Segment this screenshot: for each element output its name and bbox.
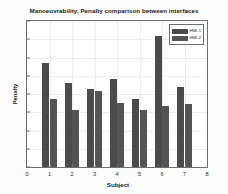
figure-canvas: Manoeuvrability, Penalty comparison betw… (0, 0, 228, 194)
x-tick-label: 4 (109, 171, 125, 177)
legend-swatch (172, 29, 188, 34)
legend-swatch (172, 36, 188, 41)
x-tick-label: 2 (64, 171, 80, 177)
x-tick-mark (95, 164, 96, 167)
x-tick-label: 6 (154, 171, 170, 177)
y-tick-mark (27, 130, 30, 131)
y-axis-label: Penalty (12, 84, 18, 105)
bar-hmi-1-subject-4 (110, 79, 117, 167)
bar-hmi-2-subject-4 (117, 103, 124, 167)
legend-label: HMI-2 (190, 36, 201, 40)
y-tick-mark (27, 57, 30, 58)
bar-hmi-2-subject-3 (95, 91, 102, 167)
y-tick-mark (27, 112, 30, 113)
x-tick-label: 1 (42, 171, 58, 177)
legend-item: HMI-2 (172, 35, 201, 41)
y-tick-mark (27, 167, 30, 168)
bar-hmi-2-subject-1 (50, 99, 57, 167)
bar-hmi-1-subject-5 (132, 99, 139, 167)
y-tick-mark (27, 94, 30, 95)
y-tick-mark (27, 148, 30, 149)
y-tick-mark (27, 39, 30, 40)
x-tick-mark (72, 164, 73, 167)
y-tick-mark (27, 75, 30, 76)
x-tick-mark (162, 164, 163, 167)
legend-label: HMI-1 (190, 29, 201, 33)
bar-hmi-2-subject-2 (72, 110, 79, 167)
x-tick-label: 5 (132, 171, 148, 177)
bar-hmi-1-subject-6 (155, 36, 162, 167)
x-tick-mark (117, 164, 118, 167)
page-title: Manoeuvrability, Penalty comparison betw… (0, 7, 228, 14)
x-tick-mark (140, 164, 141, 167)
x-tick-label: 0 (19, 171, 35, 177)
bar-hmi-1-subject-2 (65, 83, 72, 167)
bar-hmi-2-subject-7 (185, 104, 192, 167)
bar-hmi-1-subject-1 (42, 63, 49, 167)
legend-item: HMI-1 (172, 28, 201, 34)
x-tick-label: 8 (199, 171, 215, 177)
x-tick-label: 3 (87, 171, 103, 177)
y-tick-mark (27, 21, 30, 22)
bar-hmi-2-subject-6 (162, 106, 169, 167)
bar-hmi-1-subject-3 (87, 89, 94, 167)
x-axis-label: Subject (27, 181, 209, 188)
bar-hmi-1-subject-7 (177, 87, 184, 167)
bar-hmi-2-subject-5 (140, 110, 147, 167)
plot-area: 01020304050607080 012345678 Penalty Subj… (26, 20, 208, 168)
x-tick-mark (185, 164, 186, 167)
x-tick-label: 7 (177, 171, 193, 177)
legend: HMI-1HMI-2 (169, 24, 204, 45)
x-tick-mark (50, 164, 51, 167)
